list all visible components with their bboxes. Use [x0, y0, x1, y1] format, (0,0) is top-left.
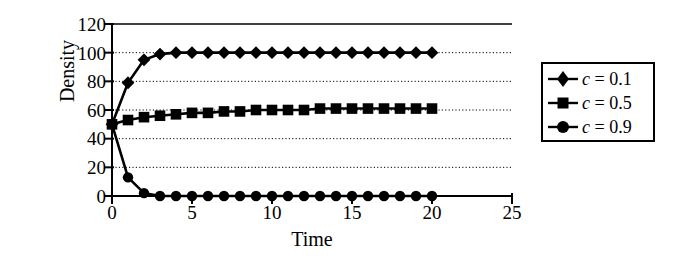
square-marker — [347, 103, 358, 114]
circle-marker — [427, 191, 437, 201]
diamond-marker — [170, 46, 183, 59]
diamond-marker — [314, 46, 327, 59]
diamond-marker — [346, 46, 359, 59]
legend-equals: = — [595, 69, 605, 89]
legend-variable: c — [582, 69, 590, 89]
legend-equals: = — [595, 117, 605, 137]
square-marker — [283, 105, 294, 116]
square-marker — [395, 103, 406, 114]
circle-marker — [347, 191, 357, 201]
circle-marker — [235, 191, 245, 201]
legend: c = 0.1 c = 0.5 c = 0.9 — [541, 62, 655, 142]
legend-label-square: c = 0.5 — [579, 93, 632, 113]
legend-entry-circle: c = 0.9 — [543, 115, 653, 139]
circle-marker — [395, 191, 405, 201]
circle-marker — [251, 191, 261, 201]
diamond-marker — [250, 46, 263, 59]
circle-marker — [283, 191, 293, 201]
diamond-marker — [234, 46, 247, 59]
diamond-marker-icon — [547, 69, 579, 89]
circle-marker — [315, 191, 325, 201]
square-marker — [251, 105, 262, 116]
legend-value: 0.9 — [609, 117, 632, 137]
square-marker — [379, 103, 390, 114]
square-marker — [299, 105, 310, 116]
circle-marker — [219, 191, 229, 201]
circle-marker — [363, 191, 373, 201]
square-marker — [187, 108, 198, 119]
data-series-layer — [106, 46, 439, 201]
square-marker — [411, 103, 422, 114]
square-marker — [315, 103, 326, 114]
square-marker — [171, 109, 182, 120]
square-marker — [235, 106, 246, 117]
chart-figure: Density 120 100 80 60 40 20 0 0 5 10 15 … — [0, 0, 688, 261]
legend-equals: = — [595, 93, 605, 113]
circle-marker — [171, 191, 181, 201]
diamond-marker — [218, 46, 231, 59]
square-marker — [219, 106, 230, 117]
square-marker — [267, 105, 278, 116]
square-marker — [139, 112, 150, 123]
circle-marker — [379, 191, 389, 201]
square-marker-icon — [547, 93, 579, 113]
legend-label-circle: c = 0.9 — [579, 117, 632, 137]
legend-variable: c — [582, 93, 590, 113]
series-circle — [107, 119, 437, 201]
square-marker — [123, 115, 134, 126]
diamond-marker — [330, 46, 343, 59]
diamond-marker — [298, 46, 311, 59]
circle-marker — [139, 188, 149, 198]
circle-marker — [267, 191, 277, 201]
circle-marker — [203, 191, 213, 201]
circle-marker — [411, 191, 421, 201]
square-marker — [331, 103, 342, 114]
series-square — [107, 103, 438, 129]
square-marker — [363, 103, 374, 114]
series-line — [112, 124, 432, 196]
diamond-marker — [378, 46, 391, 59]
diamond-marker — [154, 48, 167, 61]
diamond-marker — [282, 46, 295, 59]
legend-entry-square: c = 0.5 — [543, 91, 653, 115]
legend-variable: c — [582, 117, 590, 137]
diamond-marker — [266, 46, 279, 59]
circle-marker — [107, 119, 117, 129]
circle-marker — [187, 191, 197, 201]
legend-entry-diamond: c = 0.1 — [543, 67, 653, 91]
diamond-marker — [202, 46, 215, 59]
circle-marker — [123, 172, 133, 182]
circle-marker — [299, 191, 309, 201]
legend-label-diamond: c = 0.1 — [579, 69, 632, 89]
circle-marker-icon — [547, 117, 579, 137]
legend-value: 0.5 — [609, 93, 632, 113]
legend-value: 0.1 — [609, 69, 632, 89]
diamond-marker — [362, 46, 375, 59]
circle-marker — [155, 191, 165, 201]
square-marker — [427, 103, 438, 114]
square-marker — [155, 110, 166, 121]
square-marker — [203, 108, 214, 119]
diamond-marker — [410, 46, 423, 59]
diamond-marker — [394, 46, 407, 59]
diamond-marker — [186, 46, 199, 59]
circle-marker — [331, 191, 341, 201]
diamond-marker — [426, 46, 439, 59]
